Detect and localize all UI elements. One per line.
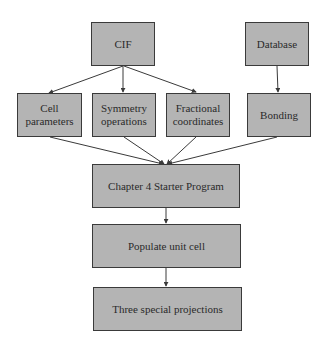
edge-database-bonding xyxy=(277,66,278,92)
node-cell-parameters: Cell parameters xyxy=(17,93,82,137)
node-three-special-projections: Three special projections xyxy=(93,287,242,331)
edge-bonding-starter xyxy=(168,137,277,164)
node-label: CIF xyxy=(114,38,131,51)
node-chapter4-starter-program: Chapter 4 Starter Program xyxy=(92,164,240,208)
node-label: Chapter 4 Starter Program xyxy=(108,180,224,193)
node-cif: CIF xyxy=(91,22,155,66)
node-label: Bonding xyxy=(260,109,298,122)
edge-cell-starter xyxy=(50,137,163,164)
node-populate-unit-cell: Populate unit cell xyxy=(92,224,241,268)
node-label: Symmetry operations xyxy=(101,102,147,128)
node-fractional-coordinates: Fractional coordinates xyxy=(166,93,230,137)
node-symmetry-operations: Symmetry operations xyxy=(92,93,156,137)
node-label: Cell parameters xyxy=(25,102,73,128)
node-label: Database xyxy=(257,38,297,51)
node-database: Database xyxy=(245,22,309,66)
edge-fractional-starter xyxy=(167,137,196,164)
edge-cif-cell xyxy=(49,66,123,93)
edge-cif-fractional xyxy=(124,66,196,92)
node-bonding: Bonding xyxy=(247,93,311,137)
node-label: Populate unit cell xyxy=(128,240,205,253)
node-label: Three special projections xyxy=(112,303,223,316)
node-label: Fractional coordinates xyxy=(173,102,224,128)
